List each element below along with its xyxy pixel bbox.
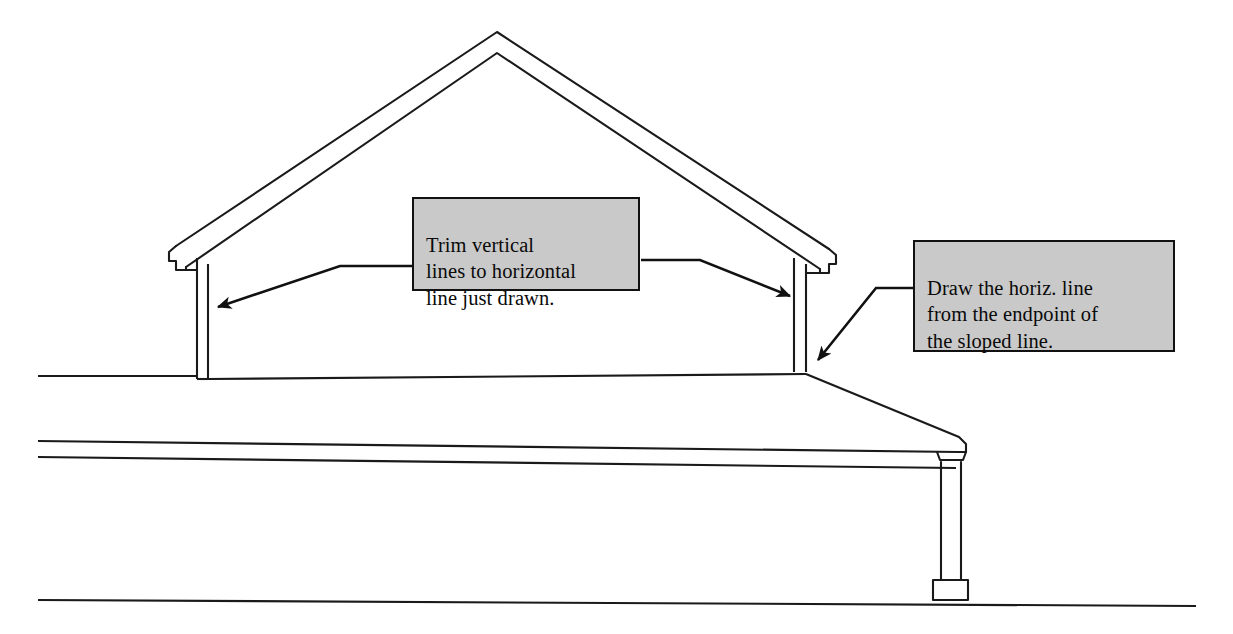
leader-trim-to-left-wall xyxy=(218,266,412,307)
callout-trim-vertical-lines[interactable]: Trim vertical lines to horizontal line j… xyxy=(412,197,640,291)
callout-trim-text: Trim vertical lines to horizontal line j… xyxy=(426,232,628,312)
ground-and-porch-lines xyxy=(38,374,1196,606)
drawing-canvas: Trim vertical lines to horizontal line j… xyxy=(0,0,1233,634)
bottom-grade-line xyxy=(38,600,1196,606)
left-eave-detail xyxy=(169,246,186,270)
callout-draw-text: Draw the horiz. line from the endpoint o… xyxy=(927,275,1163,355)
porch-roof-top-horizontal xyxy=(208,374,806,379)
porch-fascia-and-column xyxy=(933,437,968,600)
right-eave-detail xyxy=(820,249,836,273)
porch-column-base xyxy=(933,580,968,600)
callout-draw-horizontal-line[interactable]: Draw the horiz. line from the endpoint o… xyxy=(913,240,1175,352)
porch-fascia-return xyxy=(937,452,966,460)
leader-draw-to-eave-junction xyxy=(818,288,913,360)
leader-trim-to-right-wall xyxy=(641,260,790,296)
porch-soffit-line-upper xyxy=(38,441,958,452)
porch-roof-slope-top xyxy=(806,374,959,437)
porch-fascia xyxy=(958,437,966,452)
porch-beam-line-lower xyxy=(38,457,956,468)
